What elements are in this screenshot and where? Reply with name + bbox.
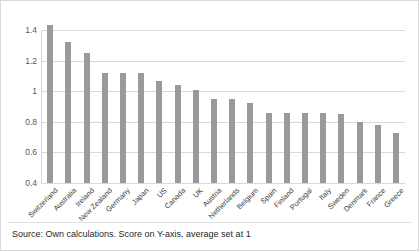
bar[interactable] [175,85,181,183]
bar[interactable] [211,99,217,183]
y-axis-tick-labels: 0.40.60.811.21.4 [7,30,37,183]
bar[interactable] [375,125,381,183]
caption-divider [8,222,412,223]
bar[interactable] [102,73,108,183]
gridline [41,61,405,62]
gridline [41,30,405,31]
chart-figure: 0.40.60.811.21.4 SwitzerlandAustraliaIre… [0,0,419,251]
bars-container [41,30,405,183]
bar[interactable] [266,113,272,183]
x-tick-label-text: UK [191,186,205,200]
y-tick-label: 1.2 [25,56,37,66]
y-tick-label: 0.6 [25,147,37,157]
gridline [41,122,405,123]
bar[interactable] [65,42,71,183]
bar[interactable] [247,103,253,183]
gridline [41,91,405,92]
x-tick-label-text: Japan [130,186,151,207]
x-axis-tick-labels: SwitzerlandAustraliaIrelandNew ZealandGe… [41,186,405,226]
bar[interactable] [320,113,326,183]
gridline [41,183,405,184]
bar[interactable] [229,99,235,183]
bar[interactable] [357,122,363,183]
y-tick-label: 0.8 [25,117,37,127]
bar[interactable] [84,53,90,183]
bar[interactable] [393,133,399,183]
y-tick-label: 0.4 [25,178,37,188]
x-tick-label-text: US [155,186,169,200]
y-tick-label: 1.4 [25,25,37,35]
y-tick-label: 1 [32,86,37,96]
chart-caption: Source: Own calculations. Score on Y-axi… [12,229,251,239]
bar[interactable] [138,73,144,183]
chart-plot-area: 0.40.60.811.21.4 SwitzerlandAustraliaIre… [7,7,413,219]
bar[interactable] [338,114,344,183]
bar[interactable] [193,90,199,183]
bar[interactable] [302,113,308,183]
bar[interactable] [120,73,126,183]
bar[interactable] [156,81,162,184]
bar[interactable] [284,113,290,183]
gridline [41,152,405,153]
bar[interactable] [47,25,53,183]
